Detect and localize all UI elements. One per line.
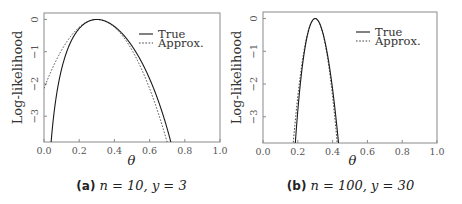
y-tick-label: −1 xyxy=(249,44,260,59)
y-tick-label: −3 xyxy=(30,109,41,124)
panel-b: 0.00.20.40.60.81.00−1−2−3Log-likelihoodT… xyxy=(219,0,450,204)
x-axis-label-b: θ xyxy=(237,153,462,168)
x-axis-label-a: θ xyxy=(16,153,247,168)
y-tick-label: 0 xyxy=(30,16,41,22)
y-axis-label: Log-likelihood xyxy=(229,31,244,125)
y-tick-label: −2 xyxy=(30,77,41,92)
caption-a-label: (a) xyxy=(76,179,95,193)
caption-a-text: n = 10, y = 3 xyxy=(100,178,187,193)
plot-frame xyxy=(44,13,220,142)
y-tick-label: −2 xyxy=(249,77,260,92)
caption-b-label: (b) xyxy=(287,179,307,193)
plot-frame xyxy=(263,12,437,143)
caption-b: (b) n = 100, y = 30 xyxy=(235,178,462,193)
panel-a: 0.00.20.40.60.81.00−1−2−3Log-likelihoodT… xyxy=(0,0,231,204)
legend-approx-label: Approx. xyxy=(374,34,421,48)
legend-approx-label: Approx. xyxy=(157,36,204,50)
caption-b-text: n = 100, y = 30 xyxy=(311,178,415,193)
chart-a-plot: 0.00.20.40.60.81.00−1−2−3Log-likelihoodT… xyxy=(0,0,231,204)
chart-b-plot: 0.00.20.40.60.81.00−1−2−3Log-likelihoodT… xyxy=(219,0,462,204)
y-tick-label: 0 xyxy=(249,15,260,21)
caption-a: (a) n = 10, y = 3 xyxy=(16,178,247,193)
y-tick-label: −3 xyxy=(249,109,260,124)
y-tick-label: −1 xyxy=(30,44,41,59)
y-axis-label: Log-likelihood xyxy=(10,31,25,125)
